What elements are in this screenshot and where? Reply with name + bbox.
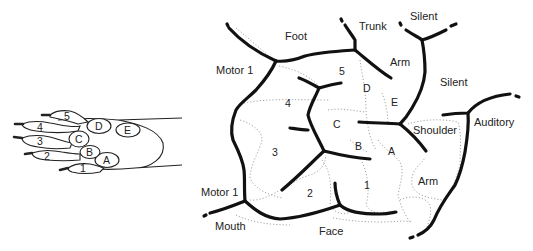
- sulcus-auditory-top: [443, 94, 510, 115]
- claw-2: [25, 153, 32, 154]
- sulcus-motor1-wall: [232, 61, 276, 201]
- pad-label-b: B: [86, 146, 93, 158]
- label-motor1-bottom: Motor 1: [201, 186, 238, 198]
- somatosensory-map-diagram: 5 4 3 2 1 A B C D E: [0, 0, 533, 251]
- label-auditory: Auditory: [474, 116, 515, 128]
- sulcus-foot-trunk: [276, 50, 355, 61]
- sulcus-arm-descending: [400, 40, 425, 124]
- pad-label-d: D: [95, 120, 103, 132]
- sulcus-1-2-stub: [335, 183, 340, 205]
- label-trunk: Trunk: [359, 20, 387, 32]
- sulcus-c-stem: [308, 88, 324, 151]
- sulcus-silent-top: [406, 30, 446, 40]
- sulcus-foot-left: [229, 28, 276, 61]
- label-pad-d: D: [363, 82, 371, 94]
- label-arm-top: Arm: [390, 56, 410, 68]
- pad-label-e: E: [124, 124, 131, 136]
- sulcus-mouth: [210, 201, 245, 213]
- sulcus-dash-mouth: [204, 215, 206, 216]
- sulcus-dash-auditory: [516, 96, 519, 97]
- label-pad-c: C: [333, 118, 341, 130]
- paw-digit-label-5: 5: [64, 110, 70, 122]
- sulcus-c-left-y: [299, 78, 319, 88]
- sulcus-c-horizontal: [359, 122, 400, 124]
- cortex-map: Foot Trunk Silent Motor 1 Arm Silent Sho…: [201, 10, 519, 238]
- label-motor1-top: Motor 1: [216, 64, 253, 76]
- claw-3: [14, 137, 22, 138]
- label-pad-e: E: [391, 96, 398, 108]
- pad-label-c: C: [75, 133, 83, 145]
- label-face: Face: [319, 225, 343, 237]
- label-silent-right: Silent: [440, 76, 468, 88]
- sulcus-b-horizontal: [324, 151, 370, 159]
- label-digit-3: 3: [272, 146, 278, 158]
- label-silent-top: Silent: [410, 10, 438, 22]
- sulcus-face: [245, 201, 340, 219]
- paw-digit-2: [32, 151, 80, 161]
- label-shoulder: Shoulder: [413, 124, 457, 136]
- sulcus-dash-topleft: [227, 24, 228, 26]
- sulcus-dash-silent1: [400, 23, 401, 25]
- paw-digit-label-2: 2: [44, 150, 50, 162]
- label-foot: Foot: [285, 30, 307, 42]
- label-pad-a: A: [388, 145, 395, 157]
- label-arm-bottom: Arm: [418, 175, 438, 187]
- claw-1: [60, 168, 68, 170]
- paw-digit-label-3: 3: [37, 135, 43, 147]
- sulcus-face-right: [340, 205, 396, 214]
- paw-digit-3: [22, 136, 72, 149]
- paw-digit-4: [22, 122, 80, 133]
- label-pad-b: B: [355, 140, 362, 152]
- paw-illustration: 5 4 3 2 1 A B C D E: [14, 110, 182, 174]
- label-digit-1: 1: [364, 179, 370, 191]
- sulcus-3-4-stub: [290, 128, 308, 130]
- pad-label-a: A: [103, 154, 110, 166]
- label-digit-4: 4: [285, 97, 291, 109]
- paw-digit-label-1: 1: [80, 162, 86, 174]
- sulci: [204, 19, 519, 238]
- sulcus-dash-silent2: [451, 24, 456, 26]
- sulcus-c-right-y: [319, 83, 341, 88]
- label-mouth: Mouth: [215, 220, 246, 232]
- label-digit-2: 2: [307, 187, 313, 199]
- paw-digit-label-4: 4: [37, 121, 43, 133]
- sulcus-trunk-stem: [345, 25, 355, 50]
- sulcus-dash-trunk: [341, 19, 342, 21]
- label-digit-5: 5: [339, 65, 345, 77]
- sulcus-2-3-diagonal: [282, 151, 324, 190]
- sulcus-dash-arm-bottom: [410, 237, 413, 238]
